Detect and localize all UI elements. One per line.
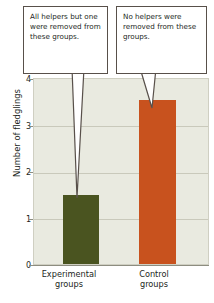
y-tick-label-0: 0 <box>5 261 31 270</box>
callout-experimental-text: All helpers but one were removed from th… <box>30 12 102 43</box>
y-tick-label-1: 1 <box>5 214 31 223</box>
callout-experimental: All helpers but one were removed from th… <box>23 6 108 74</box>
callout-control: No helpers were removed from these group… <box>116 6 207 74</box>
x-axis-line <box>33 265 209 266</box>
y-tick-mark-1 <box>29 219 33 220</box>
bar-experimental-groups <box>63 195 99 264</box>
y-axis-title: Number of fledglings <box>12 73 22 193</box>
y-tick-mark-3 <box>29 126 33 127</box>
control-callout-pointer <box>132 68 164 110</box>
callout-control-text: No helpers were removed from these group… <box>123 12 201 43</box>
y-tick-mark-4 <box>29 79 33 80</box>
x-label-control-groups: Controlgroups <box>118 269 190 290</box>
bar-control-groups <box>139 100 176 264</box>
gridline-1 <box>34 219 208 220</box>
x-label-experimental-groups: Experimentalgroups <box>29 269 109 290</box>
chart-figure: 4 3 2 1 0 Number of fledglings Experimen… <box>0 0 214 303</box>
y-tick-mark-0 <box>29 265 33 266</box>
y-tick-mark-2 <box>29 172 33 173</box>
experimental-callout-pointer <box>60 68 96 200</box>
